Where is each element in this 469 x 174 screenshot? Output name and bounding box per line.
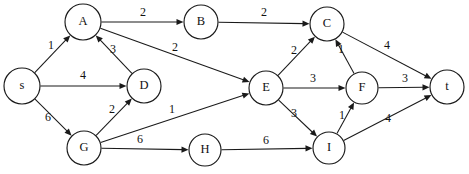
edge-weight-label: 6	[137, 132, 143, 146]
node-label: H	[200, 142, 209, 156]
edge-weight-label: 1	[339, 108, 345, 122]
graph-canvas: 1462232162233116434 sABCDEFGHIt	[0, 0, 469, 174]
edge-weight-label: 3	[110, 42, 116, 56]
node-g[interactable]: G	[67, 131, 101, 165]
nodes-layer: sABCDEFGHIt	[4, 4, 464, 166]
node-e[interactable]: E	[249, 71, 283, 105]
edge-weight-label: 1	[48, 38, 54, 52]
graph-diagram: 1462232162233116434 sABCDEFGHIt	[0, 0, 469, 174]
edge-weight-label: 1	[169, 102, 175, 116]
edge-s-to-g	[35, 99, 72, 136]
node-f[interactable]: F	[346, 72, 378, 104]
node-s[interactable]: s	[4, 68, 40, 104]
edge-weight-label: 2	[109, 102, 115, 116]
node-b[interactable]: B	[184, 5, 218, 39]
node-label: B	[197, 14, 205, 28]
node-label: t	[445, 79, 449, 93]
arrow-head-icon	[242, 77, 250, 83]
node-d[interactable]: D	[127, 69, 161, 103]
arrow-head-icon	[339, 85, 346, 91]
arrow-head-icon	[302, 21, 309, 27]
edge-weight-label: 3	[402, 71, 408, 85]
node-label: A	[78, 14, 87, 28]
node-label: E	[262, 80, 270, 94]
node-label: F	[359, 80, 366, 94]
edge-f-to-t	[378, 84, 429, 90]
edge-weight-label: 4	[384, 38, 390, 52]
edge-b-to-c	[218, 21, 309, 27]
edge-s-to-d	[41, 83, 127, 89]
edge-a-to-e	[100, 28, 249, 82]
node-label: s	[20, 78, 25, 92]
node-label: I	[327, 140, 331, 154]
edge-weight-label: 6	[45, 110, 51, 124]
node-label: G	[79, 140, 88, 154]
edge-weight-label: 2	[172, 40, 178, 54]
node-a[interactable]: A	[65, 4, 101, 40]
edge-a-to-b	[102, 19, 184, 25]
edge-weight-label: 6	[263, 133, 269, 147]
node-h[interactable]: H	[189, 134, 221, 166]
edge-weight-label: 2	[140, 5, 146, 19]
edge-g-to-e	[101, 93, 250, 143]
edge-weight-label: 2	[291, 43, 297, 57]
arrow-head-icon	[242, 93, 250, 99]
arrow-head-icon	[120, 83, 127, 89]
edge-weight-label: 3	[310, 71, 316, 85]
node-c[interactable]: C	[310, 7, 344, 41]
node-label: C	[323, 16, 331, 30]
edge-e-to-i	[279, 100, 317, 137]
node-t[interactable]: t	[430, 70, 464, 104]
edge-weight-label: 2	[261, 5, 267, 19]
edge-weight-label: 4	[80, 68, 86, 82]
arrow-head-icon	[422, 84, 429, 90]
edge-weight-label: 1	[338, 42, 344, 56]
node-label: D	[139, 78, 148, 92]
edge-weight-label: 3	[291, 106, 297, 120]
arrow-head-icon	[181, 147, 188, 153]
edge-e-to-f	[284, 85, 346, 91]
arrow-head-icon	[177, 19, 184, 25]
edge-weight-label: 4	[385, 111, 391, 125]
edge-g-to-h	[101, 147, 188, 153]
arrow-head-icon	[305, 145, 312, 151]
node-i[interactable]: I	[313, 132, 345, 164]
